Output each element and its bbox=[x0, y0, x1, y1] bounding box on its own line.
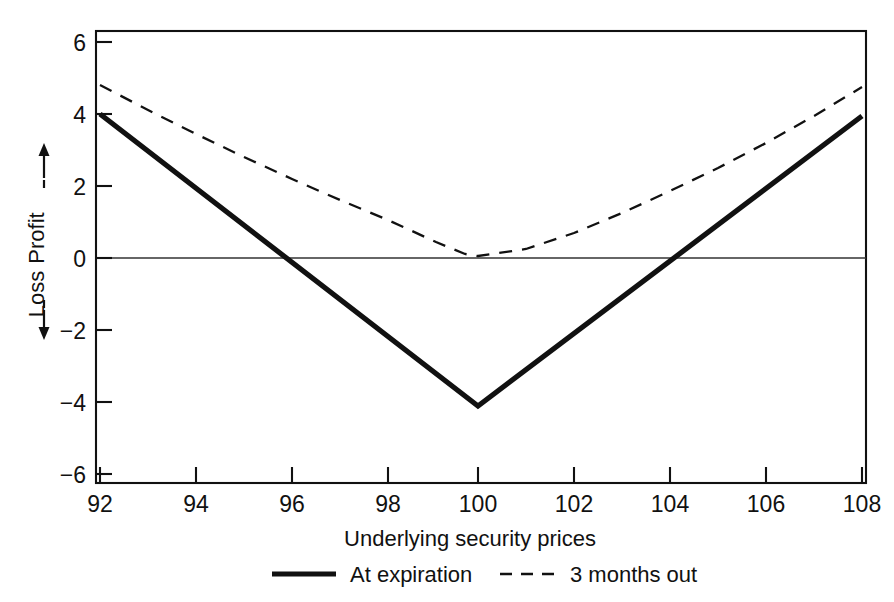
series-at-expiration bbox=[100, 114, 862, 406]
x-tick-label: 102 bbox=[555, 491, 593, 517]
y-tick-label: −4 bbox=[60, 390, 86, 416]
x-tick-label: 92 bbox=[87, 491, 113, 517]
x-axis-title: Underlying security prices bbox=[344, 526, 596, 551]
x-tick-label: 100 bbox=[459, 491, 497, 517]
arrow-up-icon bbox=[39, 143, 50, 178]
x-tick-label: 108 bbox=[843, 491, 881, 517]
y-tick-label: −2 bbox=[60, 318, 86, 344]
legend-label-3-months-out: 3 months out bbox=[570, 562, 697, 587]
y-tick-label: −6 bbox=[60, 462, 86, 488]
x-tick-label: 98 bbox=[375, 491, 401, 517]
x-tick-label: 106 bbox=[747, 491, 785, 517]
legend-label-at-expiration: At expiration bbox=[350, 562, 472, 587]
plot-frame bbox=[96, 31, 866, 483]
y-axis-title-loss: Loss bbox=[24, 271, 49, 317]
x-tick-label: 94 bbox=[183, 491, 209, 517]
y-tick-label: 0 bbox=[73, 246, 86, 272]
y-axis-ticks bbox=[96, 42, 112, 474]
x-tick-label: 104 bbox=[651, 491, 690, 517]
x-axis-ticks bbox=[100, 467, 862, 483]
y-tick-label: 6 bbox=[73, 30, 86, 56]
series-3-months-out bbox=[100, 85, 862, 256]
x-tick-label: 96 bbox=[279, 491, 305, 517]
y-tick-label: 2 bbox=[73, 174, 86, 200]
x-tick-labels: 92 94 96 98 100 102 104 106 108 bbox=[87, 491, 881, 517]
y-axis-title-group: Profit Loss bbox=[24, 143, 50, 340]
y-axis-title-profit: Profit bbox=[24, 212, 49, 263]
y-tick-labels: 6 4 2 0 −2 −4 −6 bbox=[60, 30, 86, 488]
chart-figure: 6 4 2 0 −2 −4 −6 92 94 96 98 100 102 104… bbox=[0, 0, 894, 602]
y-tick-label: 4 bbox=[73, 102, 86, 128]
chart-legend: At expiration 3 months out bbox=[272, 562, 697, 587]
